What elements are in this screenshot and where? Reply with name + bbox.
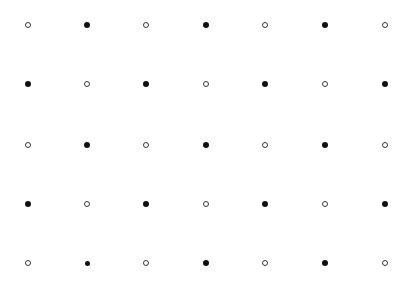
open-dot-r5-c1 — [25, 260, 31, 266]
filled-dot-r5-c4 — [203, 260, 209, 266]
open-dot-r1-c7 — [382, 22, 388, 28]
dot-grid — [0, 0, 415, 281]
open-dot-r2-c6 — [322, 81, 328, 87]
open-dot-r5-c7 — [382, 260, 388, 266]
filled-dot-r1-c4 — [203, 22, 209, 28]
open-dot-r2-c2 — [84, 81, 90, 87]
open-dot-r1-c1 — [25, 22, 31, 28]
filled-dot-r1-c2 — [84, 22, 90, 28]
filled-dot-r4-c5 — [262, 201, 268, 207]
filled-dot-r2-c1 — [25, 81, 31, 87]
filled-dot-r2-c5 — [262, 81, 268, 87]
filled-dot-r2-c3 — [143, 81, 149, 87]
filled-dot-r4-c1 — [25, 201, 31, 207]
filled-dot-r3-c6 — [322, 142, 328, 148]
open-dot-r3-c7 — [382, 142, 388, 148]
filled-dot-r4-c7 — [382, 201, 388, 207]
filled-dot-r4-c3 — [143, 201, 149, 207]
open-dot-r5-c3 — [143, 260, 149, 266]
filled-dot-r3-c2 — [84, 142, 90, 148]
open-dot-r3-c1 — [25, 142, 31, 148]
open-dot-r2-c4 — [203, 81, 209, 87]
open-dot-r1-c5 — [262, 22, 268, 28]
open-dot-r1-c3 — [143, 22, 149, 28]
filled-dot-r1-c6 — [322, 22, 328, 28]
open-dot-r3-c3 — [143, 142, 149, 148]
filled-dot-r3-c4 — [203, 142, 209, 148]
open-dot-r4-c4 — [203, 201, 209, 207]
filled-dot-r5-c2 — [85, 261, 90, 266]
filled-dot-r5-c6 — [322, 260, 328, 266]
open-dot-r4-c2 — [84, 201, 90, 207]
open-dot-r3-c5 — [262, 142, 268, 148]
open-dot-r4-c6 — [322, 201, 328, 207]
filled-dot-r2-c7 — [382, 81, 388, 87]
open-dot-r5-c5 — [262, 260, 268, 266]
